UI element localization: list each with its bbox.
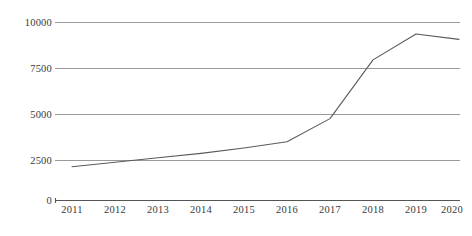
x-tick-2011: 2011 [52,204,92,216]
y-tick-5000: 5000 [6,109,52,120]
x-tick-2012: 2012 [95,204,135,216]
y-tick-7500: 7500 [6,63,52,74]
x-tick-2013: 2013 [138,204,178,216]
gridlines [55,23,460,161]
y-axis-tick-labels: 10000 7500 5000 2500 0 [0,0,52,214]
data-series-line [72,34,459,167]
x-tick-2017: 2017 [310,204,350,216]
line-chart-figure: 10000 7500 5000 2500 0 2011 2012 2013 20… [0,0,472,236]
x-axis-tick-labels: 2011 2012 2013 2014 2015 2016 2017 2018 … [0,204,472,220]
x-tick-2020: 2020 [432,204,472,216]
x-tick-2016: 2016 [267,204,307,216]
x-tick-2014: 2014 [181,204,221,216]
y-tick-10000: 10000 [6,17,52,28]
chart-canvas [0,0,472,214]
x-tick-2018: 2018 [353,204,393,216]
x-tick-2015: 2015 [224,204,264,216]
axes [55,198,460,203]
chart-plot-area: 10000 7500 5000 2500 0 2011 2012 2013 20… [0,0,472,214]
x-tick-2019: 2019 [396,204,436,216]
series-group [72,34,459,167]
y-tick-2500: 2500 [6,155,52,166]
